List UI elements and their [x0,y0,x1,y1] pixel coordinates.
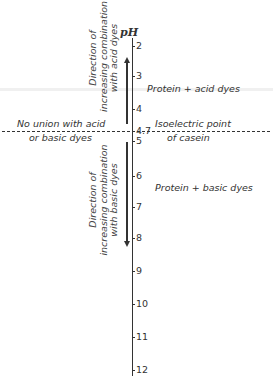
caption-line: with basic dyes [109,144,120,256]
tick-5: 5 [133,136,142,146]
tick-12: 12 [133,365,148,375]
region-basic-label: Protein + basic dyes [155,183,253,193]
upper-arrow-caption: Direction of increasing combination with… [88,4,120,112]
isoelectric-line2: of casein [167,133,210,143]
arrow-down-icon [126,142,128,242]
region-acid-label: Protein + acid dyes [147,84,240,94]
tick-10: 10 [133,299,148,309]
arrow-up-icon [126,62,128,124]
tick-4: 4 [133,104,142,114]
tick-11: 11 [133,332,148,342]
no-union-line1: No union with acid [17,119,105,129]
isoelectric-line1: Isoelectric point [155,119,231,129]
tick-2: 2 [133,41,142,51]
caption-line: with acid dyes [109,4,120,112]
caption-line: Direction of [88,144,99,256]
tick-7: 7 [133,202,142,212]
tick-9: 9 [133,266,142,276]
axis-title: pH [120,26,138,39]
no-union-line2: or basic dyes [29,133,92,143]
tick-3: 3 [133,71,142,81]
tick-6: 6 [133,171,142,181]
lower-arrow-caption: Direction of increasing combination with… [88,144,120,256]
caption-line: Direction of [88,4,99,112]
tick-8: 8 [133,233,142,243]
